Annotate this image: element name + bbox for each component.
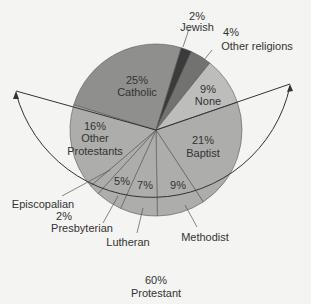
label-methodist-pct: 9% xyxy=(170,179,186,191)
label-other-protestants-2: Protestants xyxy=(67,145,123,157)
label-presbyterian: Presbyterian xyxy=(51,222,113,234)
label-baptist-pct: 21% xyxy=(192,134,214,146)
label-other-protestants-1: Other xyxy=(81,132,109,144)
label-other-religions: Other religions xyxy=(221,40,293,52)
label-presbyterian-pct: 5% xyxy=(114,175,130,187)
label-other-religions-pct: 4% xyxy=(223,26,239,38)
label-catholic: Catholic xyxy=(117,86,157,98)
label-episcopalian-pct: 2% xyxy=(56,210,72,222)
label-baptist: Baptist xyxy=(186,147,220,159)
label-none: None xyxy=(195,95,221,107)
label-catholic-pct: 25% xyxy=(126,74,148,86)
label-episcopalian: Episcopalian xyxy=(12,198,74,210)
label-lutheran: Lutheran xyxy=(106,236,149,248)
label-none-pct: 9% xyxy=(200,83,216,95)
label-methodist: Methodist xyxy=(181,231,229,243)
label-jewish: Jewish xyxy=(180,21,214,33)
label-protestant-pct: 60% xyxy=(145,274,167,286)
label-lutheran-pct: 7% xyxy=(137,179,153,191)
arrowhead-left-icon xyxy=(13,91,19,99)
label-other-protestants-pct: 16% xyxy=(84,120,106,132)
label-protestant: Protestant xyxy=(131,287,181,299)
religion-pie-chart: 2% Jewish 4% Other religions 25% Catholi… xyxy=(0,0,311,304)
